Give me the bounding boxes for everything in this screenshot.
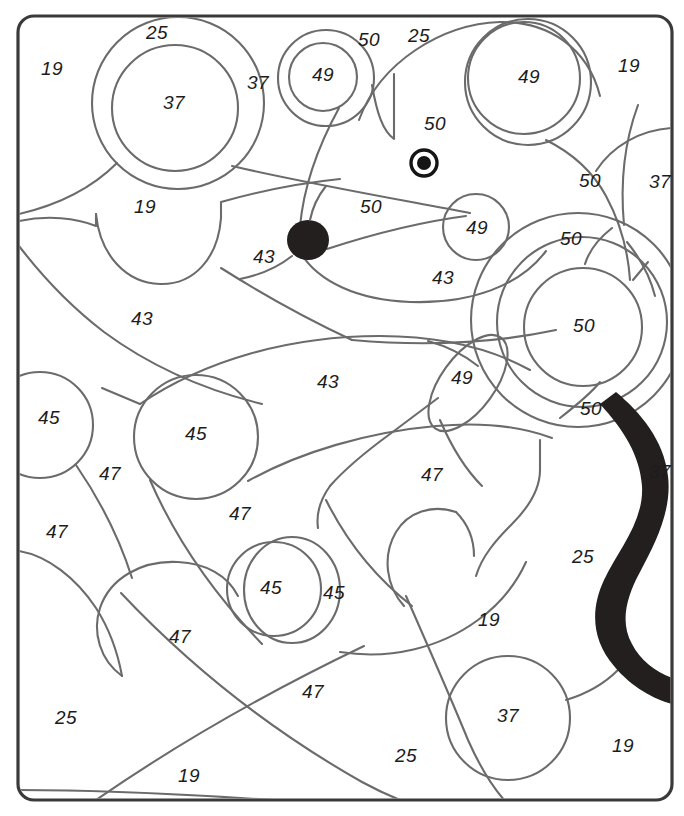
outline-lower-arc — [388, 509, 456, 606]
number-label: 47 — [229, 503, 252, 524]
number-label: 43 — [317, 371, 339, 392]
outline-left-lower-scoop — [19, 551, 122, 676]
number-label: 19 — [134, 196, 156, 217]
number-label: 25 — [394, 745, 417, 766]
number-label: 47 — [302, 681, 325, 702]
number-label: 37 — [649, 461, 672, 482]
outline-bottom-curve-d — [19, 790, 330, 804]
number-label: 19 — [41, 58, 63, 79]
outline-bottom-diagonal-a — [96, 646, 364, 800]
outline-body-lower — [248, 425, 552, 482]
outline-lower-47-stem — [476, 440, 540, 576]
number-label: 45 — [38, 407, 60, 428]
outline-snout-to-eye-line — [327, 216, 466, 249]
number-label: 25 — [571, 546, 594, 567]
tail-solid — [595, 392, 672, 704]
number-label: 50 — [580, 398, 602, 419]
number-label: 19 — [618, 55, 640, 76]
number-label: 25 — [145, 22, 168, 43]
number-label: 47 — [421, 464, 444, 485]
outline-47-right-boundary — [440, 420, 482, 486]
coloring-artwork: 19 25 37 37 49 50 25 49 19 50 19 50 50 3… — [0, 0, 684, 816]
number-label: 49 — [518, 66, 540, 87]
number-label: 37 — [247, 72, 270, 93]
eye-pupil — [417, 156, 431, 170]
number-label: 43 — [253, 246, 275, 267]
number-label: 43 — [432, 267, 454, 288]
coloring-page: 19 25 37 37 49 50 25 49 19 50 19 50 50 3… — [0, 0, 684, 816]
number-label: 50 — [579, 170, 601, 191]
number-label: 50 — [358, 29, 380, 50]
number-label: 25 — [407, 25, 430, 46]
number-label: 19 — [612, 735, 634, 756]
number-label: 50 — [360, 196, 382, 217]
outline-head-dome — [359, 22, 600, 120]
outline-right-vert — [623, 105, 638, 225]
nose-solid — [287, 220, 329, 260]
number-label: 47 — [169, 626, 192, 647]
number-label: 45 — [185, 423, 207, 444]
outline-top-right-arc — [596, 128, 672, 171]
outline-ring-connector-c — [585, 228, 612, 264]
number-label: 47 — [46, 521, 69, 542]
number-label: 45 — [323, 582, 345, 603]
outline-lower-arc-join — [456, 512, 474, 556]
number-label: 19 — [178, 765, 200, 786]
outline-ear-notch — [372, 74, 394, 139]
number-label: 50 — [560, 228, 582, 249]
number-label: 49 — [451, 367, 473, 388]
number-label: 45 — [260, 577, 282, 598]
outline-left-sweep — [19, 163, 117, 214]
outline-scoop-bowl — [96, 214, 221, 284]
outline-lower-47-left — [318, 486, 331, 528]
outline-right-upper-split — [546, 140, 630, 280]
number-label: 50 — [424, 113, 446, 134]
number-label: 37 — [497, 705, 520, 726]
number-label: 37 — [649, 171, 672, 192]
outline-45-spur-a — [102, 388, 140, 404]
number-label: 47 — [99, 463, 122, 484]
number-label: 37 — [163, 92, 186, 113]
number-label: 19 — [478, 609, 500, 630]
outline-49-oval-join — [428, 341, 478, 366]
number-label: 49 — [312, 64, 334, 85]
number-label: 49 — [466, 217, 488, 238]
number-label: 43 — [131, 308, 153, 329]
number-label: 25 — [54, 707, 77, 728]
outline-bottom-right-join — [566, 670, 618, 700]
number-label: 50 — [573, 315, 595, 336]
outline-whisker-up — [310, 186, 326, 220]
outline-scoop-left — [19, 214, 96, 226]
